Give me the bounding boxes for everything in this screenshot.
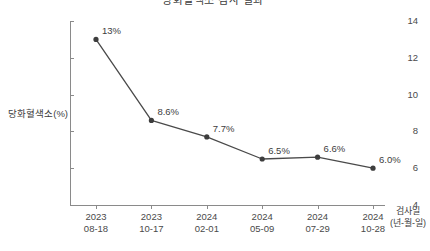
- data-point-label: 8.6%: [157, 106, 179, 117]
- data-point[interactable]: [260, 156, 265, 161]
- data-point[interactable]: [93, 37, 98, 42]
- data-point-label: 6.5%: [268, 145, 290, 156]
- data-point-label: 6.0%: [379, 154, 401, 165]
- data-point[interactable]: [149, 118, 154, 123]
- data-point-label: 13%: [102, 25, 121, 36]
- data-point[interactable]: [370, 166, 375, 171]
- data-point-label: 7.7%: [213, 123, 235, 134]
- data-point[interactable]: [315, 155, 320, 160]
- data-point-label: 6.6%: [324, 143, 346, 154]
- data-point[interactable]: [204, 134, 209, 139]
